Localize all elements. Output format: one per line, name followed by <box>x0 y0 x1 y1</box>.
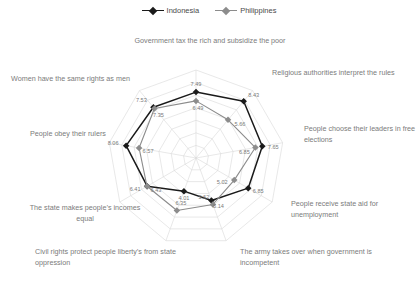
axis-label-free-elections: People choose their leaders in free elec… <box>304 124 418 145</box>
data-label: 5.02 <box>217 179 228 185</box>
data-point <box>259 143 266 150</box>
data-label: 7.49 <box>191 81 202 87</box>
data-label: 8.43 <box>248 92 259 98</box>
data-label: 5.66 <box>235 121 246 127</box>
data-label: 6.41 <box>130 186 141 192</box>
data-label: 6.85 <box>239 149 250 155</box>
axis-label-civil-rights: Civil rights protect people liberty’s fr… <box>35 247 201 268</box>
data-point <box>136 145 143 152</box>
data-label: 7.65 <box>268 144 279 150</box>
axis-label-obey-rulers: People obey their rulers <box>30 129 136 140</box>
axis-label-army-takes-over: The army takes over when government is i… <box>240 247 400 268</box>
data-point <box>245 185 252 192</box>
axis-label-state-aid: People receive state aid for unemploymen… <box>291 199 418 220</box>
data-label: 6.43 <box>151 187 162 193</box>
data-label: 5.14 <box>213 203 224 209</box>
data-label: 8.06 <box>108 140 119 146</box>
data-label: 7.53 <box>136 97 147 103</box>
axis-label-incomes-equal: The state makes people’s incomes equal <box>29 203 141 224</box>
data-point <box>193 89 200 96</box>
axis-label-tax-rich: Government tax the rich and subsidize th… <box>125 36 295 47</box>
data-label: 6.57 <box>143 148 154 154</box>
axis-label-religious-authorities: Religious authorities interpret the rule… <box>272 68 418 79</box>
data-point <box>193 98 200 105</box>
data-label: 7.35 <box>153 112 164 118</box>
data-label: 6.35 <box>175 200 186 206</box>
data-label: 6.85 <box>253 188 264 194</box>
axis-label-women-rights: Women have the same rights as men <box>11 74 147 85</box>
data-label: 5.62 <box>198 194 209 200</box>
radar-chart: Indonesia Philippines 7.498.437.656.855.… <box>0 0 418 281</box>
data-label: 6.49 <box>193 105 204 111</box>
